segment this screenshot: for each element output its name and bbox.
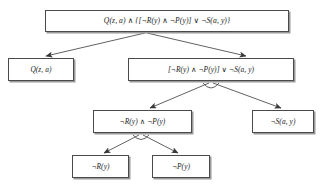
node-not-s-label: ¬S(a, y) bbox=[270, 118, 295, 125]
edge-root-to-or-group bbox=[147, 33, 246, 56]
node-root-label: Q(z, a) ∧ {[¬R(y) ∧ ¬P(y)] ∨ ¬S(a, y)} bbox=[104, 17, 230, 25]
edge-and-group-to-not-p bbox=[143, 135, 178, 153]
node-not-p-label: ¬P(y) bbox=[172, 163, 190, 170]
node-root[interactable]: Q(z, a) ∧ {[¬R(y) ∧ ¬P(y)] ∨ ¬S(a, y)} bbox=[45, 10, 289, 32]
node-and-group[interactable]: ¬R(y) ∧ ¬P(y) bbox=[93, 110, 192, 133]
edge-or-group-to-not-s bbox=[213, 83, 281, 108]
node-not-p[interactable]: ¬P(y) bbox=[152, 155, 210, 178]
node-not-r-label: ¬R(y) bbox=[91, 163, 109, 170]
node-not-r[interactable]: ¬R(y) bbox=[72, 155, 129, 178]
edge-or-group-to-and-group bbox=[150, 83, 209, 108]
node-not-s[interactable]: ¬S(a, y) bbox=[252, 110, 314, 133]
node-or-group-label: [¬R(y) ∧ ¬P(y)] ∨ ¬S(a, y) bbox=[168, 66, 254, 73]
node-or-group[interactable]: [¬R(y) ∧ ¬P(y)] ∨ ¬S(a, y) bbox=[128, 58, 294, 81]
edge-and-group-to-not-r bbox=[104, 135, 139, 153]
node-q-label: Q(z, a) bbox=[30, 66, 51, 73]
and-or-tree-figure: Q(z, a) ∧ {[¬R(y) ∧ ¬P(y)] ∨ ¬S(a, y)} Q… bbox=[0, 0, 324, 189]
and-junction-arc bbox=[133, 135, 149, 140]
node-and-group-label: ¬R(y) ∧ ¬P(y) bbox=[120, 118, 166, 125]
node-q[interactable]: Q(z, a) bbox=[8, 58, 74, 81]
edge-root-to-q bbox=[46, 33, 145, 56]
or-junction-arc bbox=[203, 83, 219, 88]
